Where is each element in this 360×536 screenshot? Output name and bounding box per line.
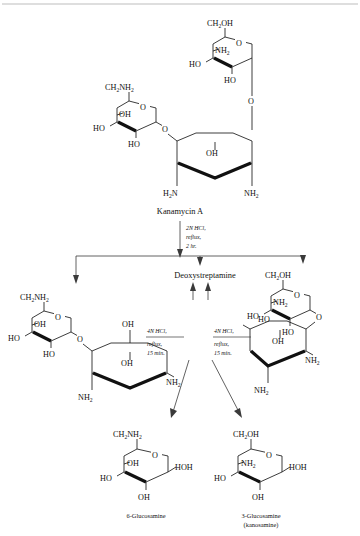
atom-ho-pr-core-top: HO (258, 315, 270, 324)
atom-glycosidic-o-pl: O (77, 335, 83, 344)
structure-product-right: O CH2OH NH2 HO HO O OH HO NH2 NH2 (243, 271, 326, 396)
ring-3-aminoglucose-product: O CH2OH NH2 HO HO O (247, 271, 326, 337)
structure-6-glucosamine: O CH2NH2 OH HO HOH OH 6-Glucosamine (100, 430, 193, 519)
condition-right-line1: 4N HCl, (214, 328, 234, 334)
atom-nh2-pr-ring: NH2 (273, 298, 288, 308)
atom-nh2-3glc-ring: NH2 (241, 459, 256, 469)
atom-ho-pl-bottom: HO (43, 350, 55, 359)
atom-ho-left-bottom: HO (128, 140, 140, 149)
atom-nh2-pr-bottom: NH2 (254, 386, 269, 396)
arrow-main-hydrolysis: 2N HCl, reflux, 2 hr. (177, 221, 206, 258)
atom-nh2-pr-right: NH2 (305, 356, 320, 366)
atom-ho-pl-side: HO (8, 334, 20, 343)
atom-glycosidic-o-pr: O (316, 313, 322, 322)
label-kanosamine: (kanosamine) (244, 521, 279, 529)
atom-ho-top-left: HO (189, 60, 201, 69)
ring-deoxystreptamine-core: OH H2N NH2 (163, 133, 259, 199)
structure-3-glucosamine: O CH2OH NH2 HO HOH OH 3-Glucosamine (kan… (214, 430, 307, 529)
ring-3-amino-sugar-top: O CH2OH NH2 HO HO O (189, 19, 258, 130)
structure-product-left: O CH2NH2 OH HO HO O OH OH NH2 NH2 (8, 293, 181, 403)
arrowhead-3-glucosamine (234, 408, 242, 418)
atom-ho-pr-bottom: HO (282, 328, 294, 337)
condition-main-line1: 2N HCl, (186, 225, 206, 231)
atom-nh2-top-ring: NH2 (215, 46, 230, 56)
atom-ring-o-6glc: O (152, 451, 158, 460)
condition-left-branch: 4N HCl, reflux, 15 min. (146, 328, 184, 356)
atom-oh-6glc-ring: OH (127, 459, 139, 468)
arrowhead-main (177, 249, 183, 258)
arrowhead-6-glucosamine (170, 408, 177, 418)
label-kanamycin-a: Kanamycin A (157, 207, 203, 216)
condition-right-line2: reflux, (214, 341, 230, 347)
atom-ring-o-3glc: O (266, 451, 272, 460)
atom-oh-pl-core: OH (121, 359, 133, 368)
atom-ring-o-pl: O (55, 313, 61, 322)
atom-oh-6glc-bottom: OH (138, 493, 150, 502)
ring-6-aminoglucose-left: O CH2NH2 OH HO HO O (93, 83, 177, 149)
atom-ch2nh2-6glc: CH2NH2 (113, 430, 142, 440)
atom-nh2-core: NH2 (244, 189, 259, 199)
structure-kanamycin-a: O CH2OH NH2 HO HO O O CH2NH2 (93, 19, 259, 216)
condition-left-line1: 4N HCl, (147, 328, 167, 334)
atom-ring-o-top: O (236, 39, 242, 48)
condition-left-line2: reflux, (147, 341, 163, 347)
atom-ho-6glc: HO (100, 474, 112, 483)
atom-ring-o-left: O (140, 103, 146, 112)
arrowhead-center-core (197, 257, 203, 266)
label-6-glucosamine: 6-Glucosamine (126, 512, 165, 519)
atom-nh2-pl-bottom: NH2 (78, 393, 93, 403)
atom-glycosidic-o-right: O (248, 97, 254, 106)
arrowhead-right-product (300, 255, 306, 264)
arrow-to-6-glucosamine (170, 360, 189, 418)
label-deoxystreptamine: Deoxystreptamine (174, 271, 236, 280)
atom-ch2nh2-pl: CH2NH2 (20, 293, 49, 303)
arrow-to-3-glucosamine (212, 360, 242, 418)
condition-main-line2: reflux, (186, 234, 202, 240)
condition-left-line3: 15 min. (147, 350, 165, 356)
atom-oh-left-ring: OH (119, 110, 131, 119)
arrowhead-up-left (190, 282, 196, 291)
atom-oh-pl-top: OH (122, 320, 134, 329)
atom-ch2oh-pr: CH2OH (265, 271, 291, 281)
ring-6-aminoglucose-product: O CH2NH2 OH HO HO O (8, 293, 92, 359)
atom-ch2nh2-left: CH2NH2 (105, 83, 134, 93)
atom-ring-o-pr: O (294, 291, 300, 300)
atom-hoh-6glc: HOH (175, 463, 193, 472)
atom-oh-core: OH (206, 149, 218, 158)
condition-main-line3: 2 hr. (186, 243, 196, 249)
atom-glycosidic-o-left: O (162, 125, 168, 134)
atom-h2n-core: H2N (163, 189, 178, 199)
atom-ch2oh-3glc: CH2OH (233, 430, 259, 440)
condition-right-branch: 4N HCl, reflux, 15 min. (213, 328, 251, 356)
atom-nh2-pl-right: NH2 (166, 378, 181, 388)
atom-ho-left-side: HO (93, 124, 105, 133)
atom-oh-3glc-bottom: OH (252, 493, 264, 502)
atom-ch2oh-top: CH2OH (207, 19, 233, 29)
atom-ho-top-bottom: HO (224, 76, 236, 85)
atom-hoh-3glc: HOH (289, 463, 307, 472)
arrowhead-up-right (205, 282, 211, 291)
atom-ho-3glc: HO (214, 474, 226, 483)
atom-oh-pl: OH (34, 320, 46, 329)
label-3-glucosamine: 3-Glucosamine (241, 512, 280, 519)
arrowhead-left-product (73, 275, 79, 284)
atom-oh-pr-core: OH (272, 337, 284, 346)
condition-right-line3: 15 min. (214, 350, 232, 356)
reaction-scheme: O CH2OH NH2 HO HO O O CH2NH2 (0, 0, 360, 536)
arrows-into-deoxystreptamine (190, 282, 211, 300)
